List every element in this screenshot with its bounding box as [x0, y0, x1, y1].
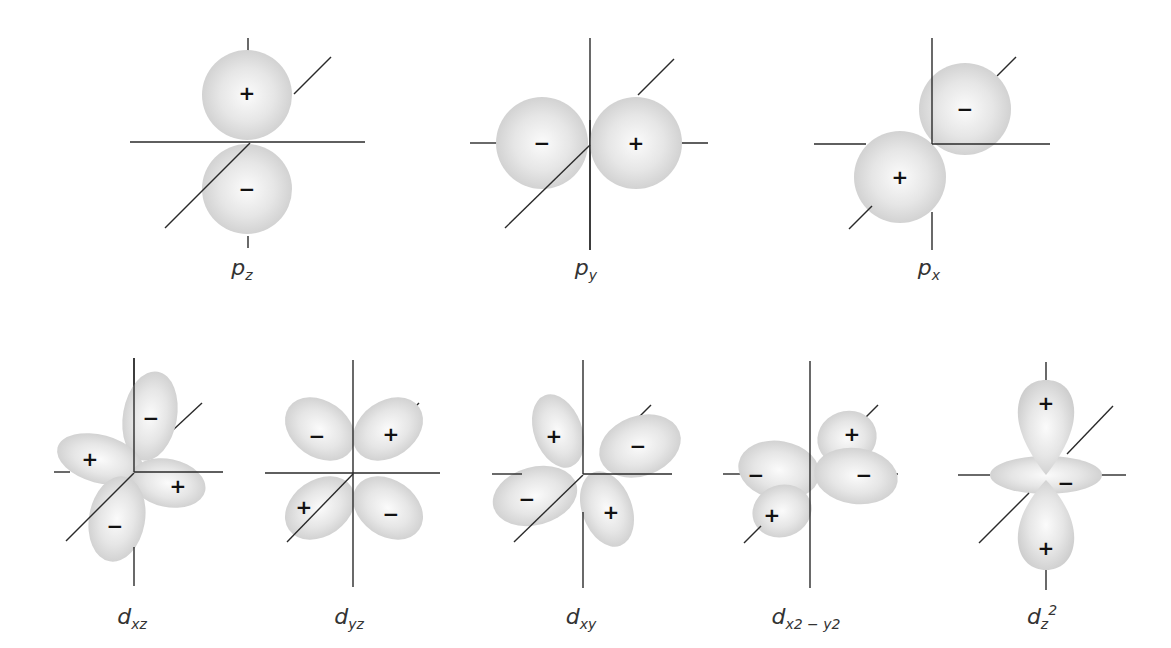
sign-left: − [534, 131, 551, 155]
orbital-label: dyz [334, 604, 364, 632]
orbital-diagram: + − pz − + py − + px [0, 0, 1171, 648]
orbital-dyz: − + + − dyz [265, 360, 440, 632]
x-axis-front [849, 206, 872, 229]
orbital-label: dz2 [1027, 602, 1057, 632]
sign-upper-right: − [630, 434, 647, 458]
x-axis-back [294, 57, 331, 94]
sign-lower: + [892, 165, 909, 189]
orbital-dxy: + − − + dxy [486, 360, 690, 632]
sign-upper: − [957, 97, 974, 121]
orbital-label: pz [230, 255, 253, 283]
x-axis-back [997, 57, 1016, 76]
sign-upper-left: − [309, 424, 326, 448]
orbital-label: px [917, 255, 941, 283]
x-axis-back [638, 59, 674, 95]
sign-top: − [143, 406, 160, 430]
sign-right: + [628, 131, 645, 155]
sign-lower-right: − [383, 502, 400, 526]
sign-back: + [844, 422, 861, 446]
sign-right: − [856, 463, 873, 487]
sign-torus: − [1058, 471, 1075, 495]
sign-bottom: − [239, 177, 256, 201]
sign-upper-left: + [546, 424, 563, 448]
sign-bottom: + [1038, 536, 1055, 560]
sign-top: + [239, 81, 256, 105]
sign-lower-right: + [603, 500, 620, 524]
orbital-pz: + − pz [130, 38, 365, 283]
orbital-dxz: − + + − dxz [51, 358, 223, 632]
orbital-dz2: + − + dz2 [958, 362, 1126, 632]
orbital-label: dx2 − y2 [772, 604, 841, 632]
sign-left: − [748, 463, 765, 487]
sign-bottom: − [107, 514, 124, 538]
orbital-px: − + px [814, 38, 1050, 283]
sign-front: + [764, 503, 781, 527]
orbital-label: dxy [566, 604, 597, 632]
sign-upper-right: + [383, 422, 400, 446]
x-axis-back [865, 405, 878, 418]
orbital-dx2-y2: + − − + dx2 − y2 [723, 361, 901, 632]
orbital-label: dxz [117, 604, 147, 632]
sign-top: + [1038, 391, 1055, 415]
sign-lower-left: + [296, 495, 313, 519]
sign-lower-left: − [519, 487, 536, 511]
sign-left: + [82, 447, 99, 471]
orbital-py: − + py [470, 38, 708, 283]
x-axis-front [744, 526, 761, 543]
orbital-label: py [574, 255, 598, 283]
sign-right: + [170, 474, 187, 498]
